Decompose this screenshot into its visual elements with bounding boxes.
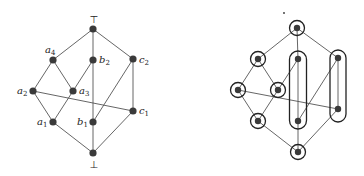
- node-a1: [255, 118, 261, 124]
- node-c2: [335, 55, 341, 61]
- diagram-canvas: ⊤ a4 b2 c2 a2 a3 c1 a1 b1 ⊥: [0, 0, 364, 176]
- partition-rings: [231, 21, 347, 160]
- node-c2: [129, 55, 136, 62]
- node-b1: [295, 118, 301, 124]
- node-top: [89, 25, 96, 32]
- label-b1: b1: [77, 116, 88, 129]
- node-a4: [255, 56, 261, 62]
- label-a2: a2: [17, 85, 27, 98]
- node-a3: [275, 87, 281, 93]
- node-a2: [235, 87, 241, 93]
- node-a2: [29, 87, 36, 94]
- label-a3: a3: [79, 85, 89, 98]
- node-b2: [295, 56, 301, 62]
- node-bottom: [89, 149, 96, 156]
- node-top: [294, 25, 300, 31]
- right-lattice: [231, 12, 347, 159]
- node-b2: [89, 56, 96, 63]
- label-c2: c2: [139, 54, 149, 67]
- node-bottom: [295, 149, 301, 155]
- label-top: ⊤: [90, 14, 99, 25]
- label-a4: a4: [45, 44, 56, 57]
- node-c1: [129, 107, 136, 114]
- left-lattice: ⊤ a4 b2 c2 a2 a3 c1 a1 b1 ⊥: [17, 14, 149, 170]
- label-b2: b2: [99, 54, 110, 67]
- node-c1: [335, 106, 341, 112]
- node-a3: [69, 87, 76, 94]
- node-b1: [89, 118, 96, 125]
- node-a4: [49, 56, 56, 63]
- right-nodes: [235, 25, 341, 155]
- right-edges: [238, 28, 338, 152]
- label-bottom: ⊥: [90, 159, 99, 170]
- label-a1: a1: [37, 116, 47, 129]
- label-c1: c1: [139, 105, 149, 118]
- node-a1: [49, 118, 56, 125]
- stray-dot: [283, 12, 285, 14]
